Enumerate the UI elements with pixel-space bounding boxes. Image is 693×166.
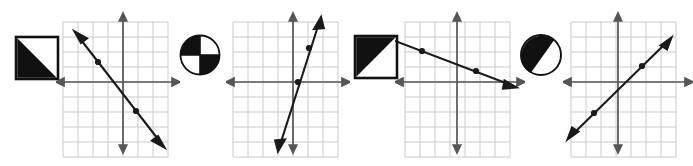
- square-upper-left-triangle-shaded-icon: [353, 34, 399, 80]
- circle-diagonal-shaded-icon: [518, 32, 564, 78]
- square-lower-left-triangle-shaded-icon: [14, 35, 60, 81]
- problem-item-2: [170, 0, 350, 166]
- grid-lines: [233, 22, 338, 157]
- problem-item-4: [513, 0, 693, 166]
- grid-lines: [571, 22, 676, 157]
- graph-positive-moderate-through-origin: [563, 0, 693, 166]
- axes: [226, 13, 350, 153]
- graph-positive-steep: [226, 0, 350, 166]
- axes: [56, 13, 180, 153]
- circle-checkerboard-quadrants-icon: [178, 33, 222, 77]
- grid-lines: [63, 22, 168, 157]
- problem-item-1: [0, 0, 180, 166]
- graph-negative-steep-through-origin: [56, 0, 180, 166]
- plotted-line: [568, 38, 672, 140]
- problem-item-3: [343, 0, 525, 166]
- worksheet-canvas: [0, 0, 693, 166]
- axes: [563, 13, 693, 153]
- plotted-line: [75, 32, 165, 148]
- graph-negative-shallow: [395, 0, 525, 166]
